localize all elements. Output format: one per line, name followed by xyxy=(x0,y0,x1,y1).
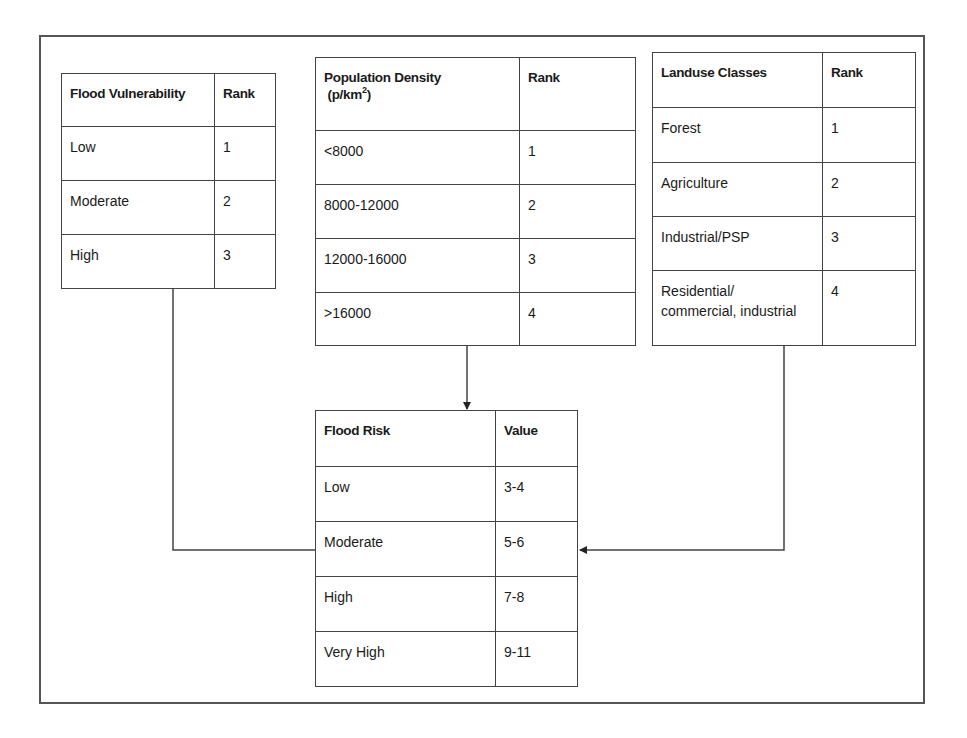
rank-value: 1 xyxy=(520,131,636,185)
density-range: 8000-12000 xyxy=(316,185,520,239)
rank-value: 4 xyxy=(823,271,916,346)
vulnerability-label: Moderate xyxy=(62,181,215,235)
header-landuse-classes: Landuse Classes xyxy=(653,53,823,108)
rank-value: 1 xyxy=(215,127,276,181)
table-row: Low 1 xyxy=(62,127,276,181)
table-row: Industrial/PSP 3 xyxy=(653,217,916,271)
vulnerability-label: High xyxy=(62,235,215,289)
header-rank: Rank xyxy=(520,58,636,131)
table-row: <8000 1 xyxy=(316,131,636,185)
rank-value: 1 xyxy=(823,108,916,163)
rank-value: 2 xyxy=(520,185,636,239)
arrow-vulnerability-to-risk xyxy=(173,273,332,550)
rank-value: 2 xyxy=(823,163,916,217)
rank-value: 3 xyxy=(823,217,916,271)
table-row: Moderate 2 xyxy=(62,181,276,235)
table-row: Very High 9-11 xyxy=(316,632,578,687)
table-row: Forest 1 xyxy=(653,108,916,163)
landuse-label: Residential/ commercial, industrial xyxy=(653,271,823,346)
table-row: >16000 4 xyxy=(316,293,636,346)
landuse-classes-table: Landuse Classes Rank Forest 1 Agricultur… xyxy=(652,52,916,346)
vulnerability-label: Low xyxy=(62,127,215,181)
table-row: High 3 xyxy=(62,235,276,289)
table-row: Moderate 5-6 xyxy=(316,522,578,577)
landuse-label: Forest xyxy=(653,108,823,163)
population-density-table: Population Density (p/km2) Rank <8000 1 … xyxy=(315,57,636,346)
density-range: 12000-16000 xyxy=(316,239,520,293)
risk-value: 9-11 xyxy=(496,632,578,687)
table-row: Residential/ commercial, industrial 4 xyxy=(653,271,916,346)
rank-value: 3 xyxy=(520,239,636,293)
risk-label: Low xyxy=(316,467,496,522)
header-flood-vulnerability: Flood Vulnerability xyxy=(62,74,215,127)
risk-value: 3-4 xyxy=(496,467,578,522)
flood-vulnerability-table: Flood Vulnerability Rank Low 1 Moderate … xyxy=(61,73,276,289)
risk-label: Very High xyxy=(316,632,496,687)
density-range: >16000 xyxy=(316,293,520,346)
table-row: Agriculture 2 xyxy=(653,163,916,217)
header-rank: Rank xyxy=(215,74,276,127)
header-flood-risk: Flood Risk xyxy=(316,411,496,467)
risk-value: 5-6 xyxy=(496,522,578,577)
rank-value: 4 xyxy=(520,293,636,346)
rank-value: 2 xyxy=(215,181,276,235)
arrow-landuse-to-risk xyxy=(580,345,784,550)
risk-label: High xyxy=(316,577,496,632)
table-row: 8000-12000 2 xyxy=(316,185,636,239)
header-rank: Rank xyxy=(823,53,916,108)
table-row: 12000-16000 3 xyxy=(316,239,636,293)
risk-value: 7-8 xyxy=(496,577,578,632)
landuse-label: Agriculture xyxy=(653,163,823,217)
rank-value: 3 xyxy=(215,235,276,289)
landuse-label: Industrial/PSP xyxy=(653,217,823,271)
header-population-density: Population Density (p/km2) xyxy=(316,58,520,131)
risk-label: Moderate xyxy=(316,522,496,577)
header-value: Value xyxy=(496,411,578,467)
density-range: <8000 xyxy=(316,131,520,185)
table-row: Low 3-4 xyxy=(316,467,578,522)
table-row: High 7-8 xyxy=(316,577,578,632)
flood-risk-table: Flood Risk Value Low 3-4 Moderate 5-6 Hi… xyxy=(315,410,578,687)
